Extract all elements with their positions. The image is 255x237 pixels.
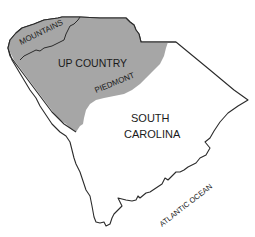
- ocean-label: ATLANTIC OCEAN: [158, 182, 214, 229]
- south-carolina-map: MOUNTAINS UP COUNTRY PIEDMONT SOUTH CARO…: [0, 0, 255, 237]
- state-name-line2: CAROLINA: [124, 128, 181, 140]
- state-name-line1: SOUTH: [131, 112, 170, 124]
- up-country-label: UP COUNTRY: [58, 57, 127, 69]
